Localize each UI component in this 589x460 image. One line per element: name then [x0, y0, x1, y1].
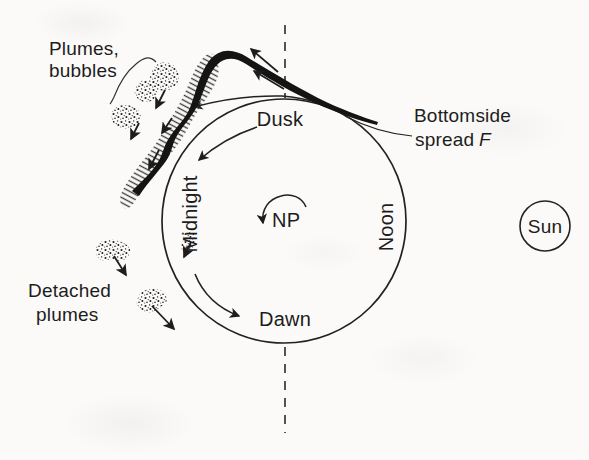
sun-label: Sun [528, 216, 562, 237]
plume-blob-3 [111, 105, 141, 129]
plume-arrow-1 [156, 90, 165, 108]
figure-canvas: Plumes, bubbles Dusk Midnight Noon Dawn … [0, 0, 589, 460]
detached-plumes-label-line2: plumes [36, 304, 98, 325]
plumes-bubbles-label-line2: bubbles [49, 60, 117, 81]
dusk-label: Dusk [257, 108, 304, 130]
midnight-label: Midnight [179, 175, 201, 252]
detached-plume-blob-1 [96, 240, 131, 261]
bottomside-spread-f-label-line1: Bottomside [414, 105, 511, 126]
convection-arrow-midnight-to-dawn [195, 274, 239, 316]
plumes-bubbles-label-line1: Plumes, [49, 38, 119, 59]
convection-arrow-dusk-to-midnight [199, 127, 257, 160]
bottomside-spread-f-label-line2: spread [415, 129, 474, 150]
bottomside-spread-f-label-f: F [479, 129, 492, 150]
polar-plume-diagram: Plumes, bubbles Dusk Midnight Noon Dawn … [0, 0, 589, 460]
noon-label: Noon [375, 203, 397, 252]
dawn-label: Dawn [259, 308, 311, 330]
np-label: NP [272, 209, 300, 231]
detached-plume-arrow-3 [152, 306, 174, 329]
detached-plume-blob-3 [137, 289, 167, 313]
detached-plumes-label-line1: Detached [28, 280, 111, 301]
plume-blob-2 [135, 80, 158, 102]
bottomside-leader-line [345, 116, 412, 136]
